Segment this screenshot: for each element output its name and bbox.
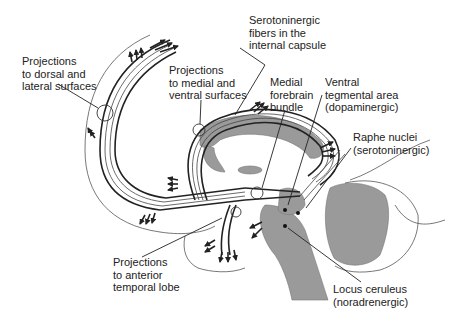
label-locus-ceruleus: Locus ceruleus (noradrenergic) [333,283,408,308]
label-anterior-temporal: Projections to anterior temporal lobe [113,256,180,294]
leader-anterior-temporal [142,218,222,257]
label-dorsal-lateral: Projections to dorsal and lateral surfac… [22,55,97,93]
leader-medial-ventral [200,100,201,124]
thalamus-small [238,166,262,174]
brainstem [260,205,328,300]
brain-pathway-diagram [0,0,461,318]
label-medial-ventral: Projections to medial and ventral surfac… [169,64,247,102]
temporal-lobe-outline [184,236,245,272]
lc-nucleus [283,224,287,228]
label-medial-forebrain-bundle: Medial forebrain bundle [270,76,313,114]
label-serotonergic-capsule: Serotoninergic fibers in the internal ca… [249,14,326,52]
vta-nucleus [283,208,287,212]
label-raphe-nuclei: Raphe nuclei (serotoninergic) [353,131,429,156]
label-ventral-tegmental: Ventral tegmental area (dopaminergic) [325,76,398,114]
temporal-marker [231,207,241,217]
cerebellum [325,183,388,265]
raphe-nucleus [296,211,300,215]
fornix [204,145,225,172]
